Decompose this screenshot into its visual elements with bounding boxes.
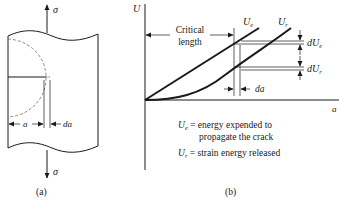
relief-zone-arc — [8, 39, 46, 117]
stress-label-bottom: σ — [53, 166, 59, 177]
curve-ue-label: Ue — [243, 16, 253, 28]
legend-ue: Ue = energy expended to — [178, 120, 272, 131]
x-axis-label: a — [332, 104, 337, 114]
da-label: da — [255, 84, 265, 94]
plate-outline — [8, 31, 98, 153]
da-dim-label: da — [63, 119, 73, 129]
curve-ur — [145, 28, 291, 100]
curve-ur-label: Ur — [278, 16, 288, 28]
legend-ur: Ur = strain energy released — [178, 148, 280, 159]
panel-b: U a Ue Ur Critical length da dUe dU — [133, 3, 339, 198]
a-dim-label: a — [23, 119, 28, 129]
dur-label: dUr — [307, 63, 322, 75]
critical-length-label-2: length — [178, 37, 202, 47]
panel-b-caption: (b) — [225, 187, 236, 198]
griffith-crack-energy-figure: σ σ a da (a) U a Ue Ur — [0, 0, 341, 204]
panel-a-caption: (a) — [36, 187, 47, 198]
due-label: dUe — [307, 37, 322, 49]
panel-a: σ σ a da (a) — [8, 4, 98, 198]
y-axis-label: U — [133, 3, 141, 14]
critical-length-label-1: Critical — [176, 25, 205, 35]
legend-ue-line2: propagate the crack — [199, 132, 274, 142]
stress-label-top: σ — [53, 4, 59, 15]
